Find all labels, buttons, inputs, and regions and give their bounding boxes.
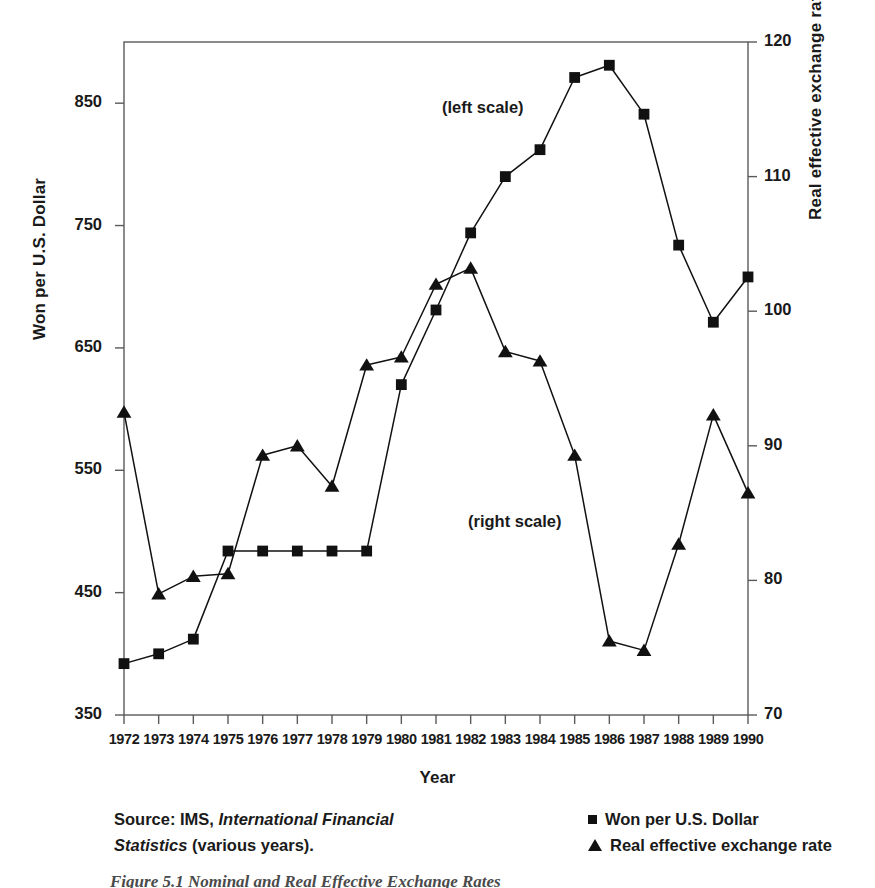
series-line-reer (124, 268, 748, 650)
data-point-triangle (637, 644, 652, 656)
right-tick-label: 80 (764, 569, 824, 588)
data-point-square (743, 272, 754, 283)
data-point-square (119, 658, 130, 669)
data-point-square (327, 546, 338, 557)
left-axis-title: Won per U.S. Dollar (30, 20, 50, 340)
x-axis-title: Year (0, 768, 875, 788)
left-tick-label: 850 (42, 92, 102, 111)
source-italic-1: International Financial (219, 810, 394, 828)
data-point-triangle (117, 405, 132, 417)
legend-item-won: Won per U.S. Dollar (588, 806, 832, 832)
right-scale-annotation: (right scale) (468, 512, 562, 531)
left-tick-label: 650 (42, 337, 102, 356)
data-point-square (188, 634, 199, 645)
chart-plot-area (0, 0, 875, 888)
source-italic-2: Statistics (114, 836, 187, 854)
data-point-square (223, 546, 234, 557)
data-point-triangle (255, 448, 270, 460)
square-marker-icon (588, 815, 597, 824)
data-point-triangle (498, 345, 513, 357)
x-tick-label: 1990 (726, 731, 770, 747)
source-line-1: Source: IMS, International Financial (114, 806, 474, 832)
data-point-triangle (394, 350, 409, 362)
data-point-square (257, 546, 268, 557)
data-point-square (604, 60, 615, 71)
left-tick-label: 350 (42, 704, 102, 723)
data-point-square (673, 240, 684, 251)
left-tick-label: 750 (42, 215, 102, 234)
plot-frame (124, 42, 748, 715)
legend-label-won: Won per U.S. Dollar (605, 806, 759, 832)
data-point-square (569, 72, 580, 83)
source-prefix: Source: IMS, (114, 810, 219, 828)
data-point-square (500, 171, 511, 182)
data-point-triangle (463, 261, 478, 273)
left-tick-label: 550 (42, 459, 102, 478)
data-point-square (396, 379, 407, 390)
right-tick-label: 100 (764, 300, 824, 319)
data-point-square (153, 648, 164, 659)
data-point-triangle (221, 567, 236, 579)
data-point-square (431, 305, 442, 316)
data-point-square (292, 546, 303, 557)
right-tick-label: 90 (764, 435, 824, 454)
data-point-triangle (671, 537, 686, 549)
source-line-2: Statistics (various years). (114, 832, 474, 858)
legend-label-reer: Real effective exchange rate (610, 832, 832, 858)
source-note: Source: IMS, International Financial Sta… (114, 806, 474, 858)
data-point-triangle (741, 486, 756, 498)
left-scale-annotation: (left scale) (442, 98, 524, 117)
data-point-triangle (429, 277, 444, 289)
source-suffix: (various years). (187, 836, 314, 854)
data-point-triangle (533, 354, 548, 366)
data-point-square (465, 227, 476, 238)
data-point-triangle (151, 587, 166, 599)
data-point-square (535, 144, 546, 155)
data-point-triangle (290, 439, 305, 451)
data-point-triangle (567, 448, 582, 460)
left-tick-label: 450 (42, 582, 102, 601)
figure-container: Won per U.S. Dollar Real effective excha… (0, 0, 875, 888)
legend-item-reer: Real effective exchange rate (588, 832, 832, 858)
data-point-triangle (706, 408, 721, 420)
chart-legend: Won per U.S. Dollar Real effective excha… (588, 806, 832, 858)
figure-caption: Figure 5.1 Nominal and Real Effective Ex… (110, 872, 501, 888)
data-point-triangle (602, 634, 617, 646)
right-tick-label: 120 (764, 31, 824, 50)
data-point-square (708, 317, 719, 328)
right-tick-label: 110 (764, 166, 824, 185)
data-point-square (639, 109, 650, 120)
triangle-marker-icon (588, 839, 602, 851)
data-point-square (361, 546, 372, 557)
right-tick-label: 70 (764, 704, 824, 723)
